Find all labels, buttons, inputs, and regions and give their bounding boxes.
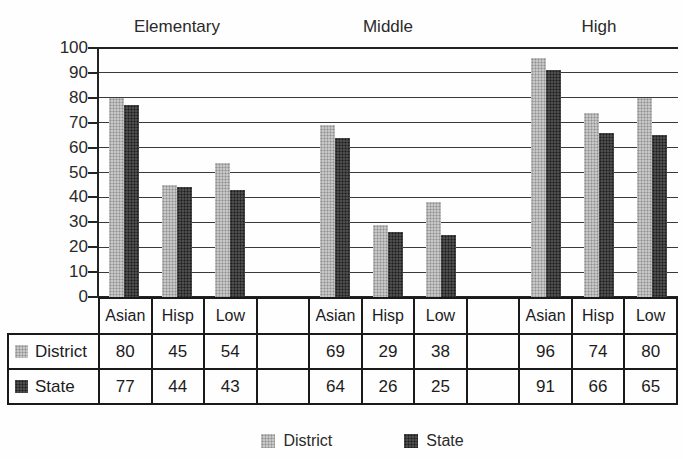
y-tick-label-30: 30	[38, 213, 88, 231]
col-header-hisp-9: Hisp	[572, 298, 625, 334]
bar-state-high-low	[652, 135, 667, 297]
bar-state-elementary-asian	[124, 105, 139, 297]
col-header-low-2: Low	[204, 298, 257, 334]
legend-item-state: State	[404, 432, 463, 450]
table-cell-district-10: 80	[624, 334, 677, 369]
bar-state-elementary-low	[230, 190, 245, 297]
district-swatch-icon	[15, 345, 28, 358]
bar-state-middle-asian	[335, 138, 350, 297]
chart-figure: Elementary Middle High 01020304050607080…	[0, 0, 683, 459]
bar-state-elementary-hisp	[177, 187, 192, 297]
bar-district-high-low	[637, 98, 652, 297]
bar-district-high-hisp	[584, 113, 599, 297]
bar-district-elementary-asian	[109, 98, 124, 297]
table-corner-spacer	[8, 298, 99, 334]
bar-district-middle-asian	[320, 125, 335, 297]
table-cell-state-4: 64	[309, 369, 362, 404]
bar-district-high-asian	[531, 58, 546, 297]
table-cell-state-6: 25	[414, 369, 467, 404]
bar-state-high-asian	[546, 70, 561, 297]
group-title-elementary: Elementary	[98, 17, 256, 37]
table-header-row: AsianHispLowAsianHispLowAsianHispLow	[8, 298, 677, 334]
col-header-hisp-5: Hisp	[362, 298, 415, 334]
chart-legend: District State	[0, 429, 683, 453]
table-cell-spacer-7	[467, 369, 520, 404]
y-tick-label-100: 100	[38, 39, 88, 57]
table-cell-spacer-7	[467, 334, 520, 369]
table-cell-state-5: 26	[362, 369, 415, 404]
table-cell-district-1: 45	[152, 334, 205, 369]
bar-district-elementary-low	[215, 163, 230, 297]
col-header-asian-0: Asian	[99, 298, 152, 334]
group-title-high: High	[520, 17, 678, 37]
col-header-spacer-7	[467, 298, 520, 334]
y-tick-label-20: 20	[38, 238, 88, 256]
table-cell-district-2: 54	[204, 334, 257, 369]
bar-state-middle-hisp	[388, 232, 403, 297]
state-swatch-icon	[404, 434, 418, 448]
bar-district-middle-low	[426, 202, 441, 297]
table-cell-state-2: 43	[204, 369, 257, 404]
col-header-low-6: Low	[414, 298, 467, 334]
table-cell-state-8: 91	[519, 369, 572, 404]
district-swatch-icon	[261, 434, 275, 448]
table-cell-district-4: 69	[309, 334, 362, 369]
legend-label-state: State	[426, 432, 463, 450]
table-cell-district-0: 80	[99, 334, 152, 369]
table-row-district: District804554692938967480	[8, 334, 677, 369]
col-header-asian-4: Asian	[309, 298, 362, 334]
bar-state-high-hisp	[599, 133, 614, 297]
plot-area	[98, 48, 678, 297]
col-header-asian-8: Asian	[519, 298, 572, 334]
y-tick-label-90: 90	[38, 64, 88, 82]
row-label-text: State	[35, 377, 75, 396]
row-label-state: State	[8, 369, 99, 404]
y-tick-label-80: 80	[38, 89, 88, 107]
bar-state-middle-low	[441, 235, 456, 297]
col-header-hisp-1: Hisp	[152, 298, 205, 334]
state-swatch-icon	[15, 380, 28, 393]
table-cell-spacer-3	[257, 334, 310, 369]
table-cell-district-5: 29	[362, 334, 415, 369]
table-row-state: State774443642625916665	[8, 369, 677, 404]
table-cell-spacer-3	[257, 369, 310, 404]
y-tick-label-50: 50	[38, 164, 88, 182]
table-cell-district-6: 38	[414, 334, 467, 369]
bar-district-middle-hisp	[373, 225, 388, 297]
y-tick-label-60: 60	[38, 139, 88, 157]
legend-label-district: District	[283, 432, 332, 450]
table-cell-state-9: 66	[572, 369, 625, 404]
table-cell-state-0: 77	[99, 369, 152, 404]
table-cell-state-10: 65	[624, 369, 677, 404]
data-table: AsianHispLowAsianHispLowAsianHispLowDist…	[7, 297, 678, 405]
table-cell-district-8: 96	[519, 334, 572, 369]
group-title-middle: Middle	[309, 17, 467, 37]
bar-district-elementary-hisp	[162, 185, 177, 297]
row-label-text: District	[35, 342, 87, 361]
y-tick-label-40: 40	[38, 188, 88, 206]
y-tick-label-10: 10	[38, 263, 88, 281]
table-cell-state-1: 44	[152, 369, 205, 404]
col-header-low-10: Low	[624, 298, 677, 334]
table-cell-district-9: 74	[572, 334, 625, 369]
row-label-district: District	[8, 334, 99, 369]
col-header-spacer-3	[257, 298, 310, 334]
y-tick-label-70: 70	[38, 114, 88, 132]
legend-item-district: District	[261, 432, 332, 450]
